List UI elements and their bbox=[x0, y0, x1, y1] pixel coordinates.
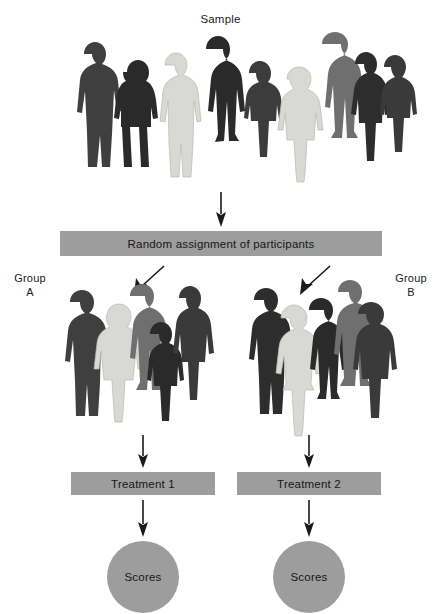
silhouette-figure bbox=[244, 61, 283, 157]
arrow-treatment-1-to-scores bbox=[135, 500, 151, 538]
silhouette-figure bbox=[173, 286, 214, 400]
arrow-group-a-to-treatment-1 bbox=[135, 435, 151, 469]
random-assignment-label: Random assignment of participants bbox=[128, 238, 315, 250]
diagram-canvas: Sample bbox=[0, 0, 441, 614]
scores-circle-a: Scores bbox=[107, 541, 179, 613]
scores-circle-b: Scores bbox=[273, 541, 345, 613]
group-a-label: Group A bbox=[2, 272, 58, 300]
silhouette-figure bbox=[278, 67, 323, 182]
group-b-people-illustration bbox=[248, 288, 388, 430]
group-b-label: Group B bbox=[383, 272, 439, 300]
silhouette-figure bbox=[206, 36, 245, 142]
arrow-treatment-2-to-scores bbox=[301, 500, 317, 538]
scores-b-label: Scores bbox=[291, 571, 328, 583]
treatment-1-box: Treatment 1 bbox=[71, 472, 215, 495]
random-assignment-box: Random assignment of participants bbox=[60, 231, 382, 256]
silhouette-figure bbox=[114, 60, 158, 167]
treatment-2-label: Treatment 2 bbox=[277, 478, 341, 490]
silhouette-figure bbox=[77, 42, 121, 167]
group-a-people-illustration bbox=[62, 288, 202, 430]
arrow-group-b-to-treatment-2 bbox=[301, 435, 317, 469]
treatment-1-label: Treatment 1 bbox=[111, 478, 175, 490]
scores-a-label: Scores bbox=[125, 571, 162, 583]
sample-people-illustration bbox=[60, 32, 390, 187]
silhouette-figure bbox=[160, 53, 201, 177]
treatment-2-box: Treatment 2 bbox=[237, 472, 381, 495]
page-title: Sample bbox=[0, 12, 441, 26]
arrow-sample-to-assignment bbox=[213, 192, 229, 228]
